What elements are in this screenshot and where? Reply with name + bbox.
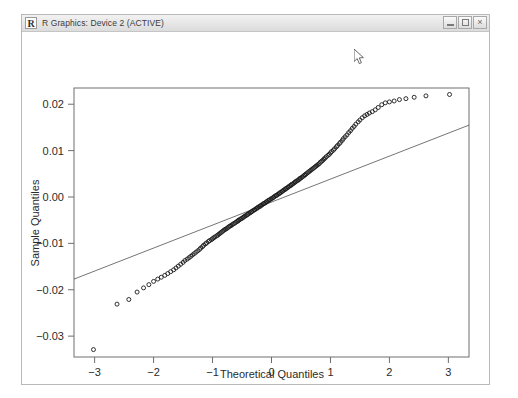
- y-tick-label: 0.02: [43, 98, 64, 110]
- y-tick-label: 0.01: [43, 145, 64, 157]
- minimize-icon: [447, 24, 454, 26]
- y-axis-ticks: [68, 104, 74, 336]
- r-logo-icon: R: [25, 17, 37, 29]
- data-point: [135, 290, 139, 294]
- data-point: [152, 279, 156, 283]
- plot-canvas: −3−2−10123 0.020.010.00−0.01−0.02−0.03 T…: [22, 33, 489, 384]
- y-tick-label: −0.03: [36, 330, 64, 342]
- x-tick-label: 3: [445, 366, 451, 378]
- x-axis-label: Theoretical Quantiles: [220, 368, 324, 380]
- y-tick-label: 0.00: [43, 191, 64, 203]
- data-point: [142, 286, 146, 290]
- maximize-icon: [462, 19, 469, 26]
- data-point: [448, 92, 452, 96]
- x-tick-label: 2: [386, 366, 392, 378]
- x-tick-label: −2: [147, 366, 160, 378]
- window-title-bar[interactable]: R R Graphics: Device 2 (ACTIVE) ×: [22, 15, 489, 32]
- data-point: [392, 99, 396, 103]
- x-tick-label: −3: [88, 366, 101, 378]
- window-controls: ×: [443, 16, 487, 29]
- data-point: [387, 100, 391, 104]
- qq-plot: −3−2−10123 0.020.010.00−0.01−0.02−0.03 T…: [22, 33, 489, 384]
- qqline: [74, 125, 469, 279]
- data-point: [376, 105, 380, 109]
- data-point: [412, 95, 416, 99]
- data-point: [147, 283, 151, 287]
- data-point: [424, 94, 428, 98]
- window-title: R Graphics: Device 2 (ACTIVE): [42, 18, 164, 28]
- data-point: [383, 101, 387, 105]
- data-point: [91, 348, 95, 352]
- data-point: [127, 297, 131, 301]
- y-tick-label: −0.02: [36, 284, 64, 296]
- x-axis-ticks: [95, 357, 449, 363]
- x-tick-label: −1: [206, 366, 219, 378]
- plot-frame: [74, 88, 469, 357]
- r-graphics-window: R R Graphics: Device 2 (ACTIVE) × −3−2−1…: [21, 14, 490, 385]
- data-point: [115, 302, 119, 306]
- y-axis-label: Sample Quantiles: [29, 179, 41, 266]
- data-points-group: [91, 92, 451, 351]
- close-button[interactable]: ×: [473, 16, 487, 29]
- minimize-button[interactable]: [443, 16, 457, 29]
- data-point: [397, 98, 401, 102]
- data-point: [404, 97, 408, 101]
- maximize-button[interactable]: [458, 16, 472, 29]
- qqline-group: [74, 125, 469, 279]
- plot-border: [74, 88, 469, 357]
- x-tick-label: 1: [327, 366, 333, 378]
